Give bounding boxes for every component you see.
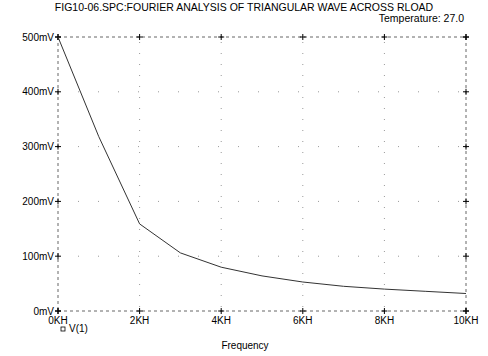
x-tick-label: 8KH xyxy=(375,315,394,326)
plot-frame xyxy=(55,34,469,314)
legend-marker-icon xyxy=(61,327,65,331)
x-tick-label: 0KH xyxy=(48,315,67,326)
y-axis-labels: 0mV100mV200mV300mV400mV500mV xyxy=(22,32,54,317)
y-tick-label: 400mV xyxy=(22,86,54,97)
y-tick-label: 200mV xyxy=(22,196,54,207)
x-tick-label: 6KH xyxy=(293,315,312,326)
x-tick-label: 2KH xyxy=(130,315,149,326)
x-tick-label: 4KH xyxy=(211,315,230,326)
plot-area: 0mV100mV200mV300mV400mV500mV 0KH2KH4KH6K… xyxy=(0,0,488,356)
x-axis-title: Frequency xyxy=(221,340,268,351)
legend-label: V(1) xyxy=(69,323,88,334)
series-v1-line xyxy=(58,37,466,294)
y-tick-label: 500mV xyxy=(22,32,54,43)
y-tick-label: 100mV xyxy=(22,251,54,262)
x-tick-label: 10KH xyxy=(453,315,478,326)
x-axis-labels: 0KH2KH4KH6KH8KH10KH xyxy=(48,315,478,326)
grid xyxy=(78,42,459,307)
y-tick-label: 300mV xyxy=(22,141,54,152)
